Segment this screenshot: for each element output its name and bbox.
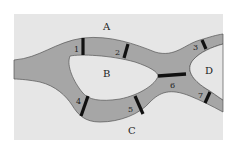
label-bridge-1: 1 [74,45,79,54]
konigsberg-bridges-diagram: A B C D 1 2 3 4 5 6 7 [0,0,235,146]
label-bridge-5: 5 [128,105,133,114]
label-bridge-3: 3 [193,43,198,52]
label-bridge-6: 6 [170,81,175,90]
label-region-d: D [205,65,213,76]
bridge-6 [158,74,186,76]
label-bridge-4: 4 [76,97,81,106]
label-bridge-2: 2 [115,48,120,57]
label-bridge-7: 7 [198,91,203,100]
label-region-b: B [103,68,110,79]
label-region-a: A [102,21,111,32]
label-region-c: C [128,125,136,136]
